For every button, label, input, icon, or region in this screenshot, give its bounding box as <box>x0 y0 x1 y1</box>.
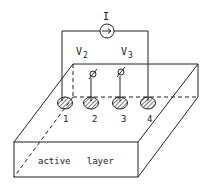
current-label: I <box>103 11 109 22</box>
svg-text:3: 3 <box>128 51 133 60</box>
voltage-label-v3: V 3 <box>121 46 133 60</box>
voltage-label-v2: V 2 <box>76 46 88 60</box>
current-circuit <box>62 24 148 101</box>
svg-text:V: V <box>76 46 82 57</box>
svg-text:2: 2 <box>83 51 88 60</box>
active-layer-label: active layer <box>38 156 114 166</box>
electrode-label-3: 3 <box>121 114 126 124</box>
four-probe-diagram: I V 2 V 3 <box>0 0 209 190</box>
electrode-4 <box>141 97 156 109</box>
electrode-label-1: 1 <box>63 114 68 124</box>
electrode-label-2: 2 <box>92 114 97 124</box>
probe-terminal-icon <box>89 69 97 79</box>
electrode-3 <box>113 97 128 109</box>
svg-text:V: V <box>121 46 127 57</box>
voltage-probes <box>89 67 125 101</box>
electrode-2 <box>84 97 99 109</box>
electrode-1 <box>58 97 73 109</box>
electrode-label-4: 4 <box>147 114 152 124</box>
probe-terminal-icon <box>117 67 125 77</box>
